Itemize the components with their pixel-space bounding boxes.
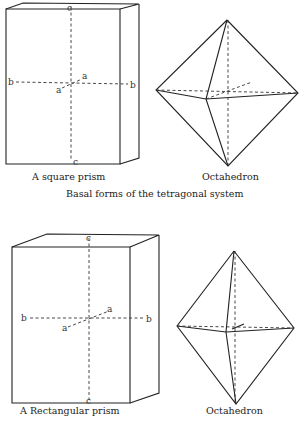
square-prism-front-face: [6, 9, 120, 164]
rect-prism-side-face: [130, 235, 159, 403]
b-right-label: b: [146, 314, 152, 324]
c-top-label: c: [67, 3, 72, 13]
a-front-label: a: [62, 323, 68, 333]
c-top-label: c: [86, 233, 91, 243]
crystal-forms-diagram: c c b b a a c c b b a a: [0, 0, 303, 423]
octahedron-front-edge: [206, 20, 228, 166]
a-back-label: a: [82, 71, 88, 81]
octahedron-equator-front: [177, 326, 294, 332]
rectangular-prism-figure: c c b b a a: [12, 233, 159, 406]
square-prism-top-face: [6, 3, 139, 9]
a-back-label: a: [107, 304, 113, 314]
square-prism-caption: A square prism: [32, 171, 105, 182]
b-left-label: b: [8, 77, 14, 87]
square-prism-figure: c c b b a a: [6, 3, 139, 167]
octahedron-a-axis: [232, 324, 244, 329]
tetragonal-octahedron-figure: [156, 20, 298, 166]
top-octahedron-caption: Octahedron: [202, 171, 259, 182]
a-front-label: a: [56, 85, 62, 95]
octahedron-outline: [156, 20, 298, 166]
c-bottom-label: c: [73, 157, 78, 167]
rect-prism-front-face: [12, 247, 130, 403]
b-left-label: b: [21, 313, 27, 323]
rectangular-prism-caption: A Rectangular prism: [20, 405, 120, 416]
bottom-octahedron-caption: Octahedron: [206, 405, 263, 416]
section-caption: Basal forms of the tetragonal system: [66, 188, 243, 199]
elongated-octahedron-figure: [177, 251, 294, 404]
b-axis: [16, 82, 128, 84]
b-right-label: b: [130, 80, 136, 90]
a-axis: [68, 311, 109, 327]
